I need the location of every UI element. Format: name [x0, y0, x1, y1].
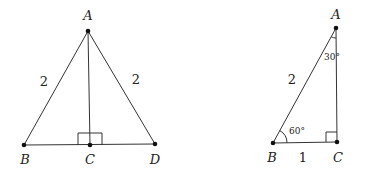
label-a: A — [330, 7, 340, 22]
angle-arc-a-icon — [331, 37, 336, 38]
point-c — [88, 143, 93, 148]
label-c: C — [85, 152, 95, 167]
segment-ab — [24, 31, 88, 145]
30-60-90-triangle-figure: A B C 2 1 30° 60° — [266, 7, 343, 165]
point-a — [86, 29, 91, 34]
isosceles-triangle-figure: A B C D 2 2 — [19, 8, 161, 167]
side-length-bc: 1 — [299, 150, 307, 165]
side-length-ad: 2 — [132, 72, 140, 87]
segment-bc — [273, 142, 337, 143]
point-b — [22, 143, 27, 148]
segment-ac — [336, 28, 337, 142]
side-length-ab: 2 — [288, 72, 296, 87]
angle-arc-b-icon — [280, 131, 287, 143]
label-d: D — [149, 152, 161, 167]
label-b: B — [19, 152, 30, 167]
point-d — [153, 142, 158, 147]
point-c — [335, 140, 340, 145]
label-b: B — [266, 150, 277, 165]
angle-label-a: 30° — [324, 52, 340, 62]
diagram-canvas: A B C D 2 2 A B C 2 1 30° 60° — [0, 0, 370, 174]
side-length-ab: 2 — [40, 74, 48, 89]
label-c: C — [333, 150, 343, 165]
angle-label-b: 60° — [289, 126, 305, 136]
point-b — [271, 141, 276, 146]
label-a: A — [82, 8, 92, 23]
segment-ac-altitude — [88, 31, 90, 145]
point-a — [334, 26, 339, 31]
segment-ad — [88, 31, 155, 144]
